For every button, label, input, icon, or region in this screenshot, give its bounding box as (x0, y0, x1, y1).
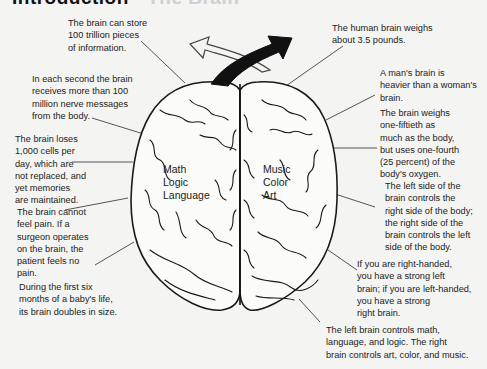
fact-line: The brain cannot (17, 206, 89, 218)
fact-line: of information. (68, 42, 147, 54)
left-hemisphere-labels: Math Logic Language (163, 163, 210, 202)
fact-line: 1,000 cells per (15, 145, 86, 157)
fact-line: receives more than 100 (32, 85, 133, 97)
fact-line: brain controls the left (385, 229, 473, 241)
fact-line: right brain. (357, 307, 471, 319)
fact-line: but uses one-fourth (380, 144, 459, 156)
fact-line: you have a strong left (357, 270, 471, 282)
fact-line: The brain weighs (380, 107, 459, 119)
fact-line: from the body. (32, 110, 133, 122)
label-color: Color (263, 176, 290, 189)
fact-line: million nerve messages (32, 98, 133, 110)
label-math: Math (163, 163, 210, 176)
label-music: Music (263, 163, 290, 176)
fact-line: During the first six (19, 281, 117, 293)
fact-line: one-fiftieth as (380, 119, 459, 131)
fact-line: its brain doubles in size. (19, 306, 117, 318)
fact-handedness: If you are right-handed, you have a stro… (357, 258, 471, 319)
fact-baby: During the first six months of a baby's … (19, 281, 117, 318)
fact-line: about 3.5 pounds. (332, 34, 433, 46)
fact-oxygen: The brain weighs one-fiftieth as much as… (380, 107, 459, 181)
brain-outline (131, 82, 337, 310)
label-language: Language (163, 189, 210, 202)
fact-line: brain controls the (385, 192, 473, 204)
fact-messages: In each second the brain receives more t… (32, 73, 133, 122)
fact-line: A man's brain is (380, 67, 477, 79)
fact-line: (25 percent) of the (380, 156, 459, 168)
fact-functions: The left brain controls math, language, … (326, 324, 468, 361)
fact-line: are maintained. (15, 194, 86, 206)
fact-line: language, and logic. The right (326, 336, 468, 348)
fact-weight: The human brain weighs about 3.5 pounds. (332, 22, 433, 47)
fact-line: The left side of the (385, 180, 473, 192)
fact-line: The brain loses (15, 133, 86, 145)
fact-line: brain controls art, color, and music. (326, 349, 468, 361)
fact-line: months of a baby's life, (19, 293, 117, 305)
fact-line: surgeon operates (17, 231, 89, 243)
fact-line: The brain can store (68, 17, 147, 29)
fact-line: In each second the brain (32, 73, 133, 85)
fact-control: The left side of the brain controls the … (385, 180, 473, 254)
fact-pain: The brain cannot feel pain. If a surgeon… (17, 206, 89, 280)
fact-line: not replaced, and (15, 170, 86, 182)
fact-line: patient feels no (17, 255, 89, 267)
fact-line: you have a strong (357, 295, 471, 307)
fact-gender: A man's brain is heavier than a woman's … (380, 67, 477, 104)
fact-cells: The brain loses 1,000 cells per day, whi… (15, 133, 86, 207)
fact-line: much as the body, (380, 132, 459, 144)
fact-line: on the brain, the (17, 243, 89, 255)
fact-line: the right side of the (385, 217, 473, 229)
fact-line: The human brain weighs (332, 22, 433, 34)
fact-storage: The brain can store 100 trillion pieces … (68, 17, 147, 54)
label-logic: Logic (163, 176, 210, 189)
fact-line: The left brain controls math, (326, 324, 468, 336)
label-art: Art (263, 189, 290, 202)
solid-arrow-icon (211, 36, 292, 86)
fact-line: feel pain. If a (17, 218, 89, 230)
fact-line: heavier than a woman's (380, 79, 477, 91)
fact-line: brain; if you are left-handed, (357, 283, 471, 295)
fact-line: yet memories (15, 182, 86, 194)
fact-line: If you are right-handed, (357, 258, 471, 270)
fact-line: body's oxygen. (380, 168, 459, 180)
fact-line: pain. (17, 267, 89, 279)
fact-line: right side of the body; (385, 205, 473, 217)
fact-line: brain. (380, 92, 477, 104)
fact-line: day, which are (15, 158, 86, 170)
right-hemisphere-labels: Music Color Art (263, 163, 290, 202)
fact-line: 100 trillion pieces (68, 29, 147, 41)
fact-line: side of the body. (385, 241, 473, 253)
